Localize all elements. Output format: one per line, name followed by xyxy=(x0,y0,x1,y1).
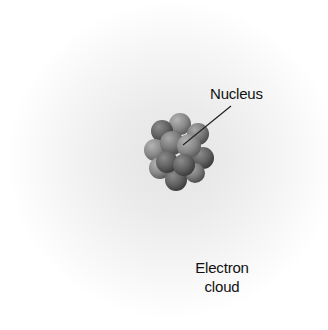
nucleus-particles xyxy=(144,113,214,191)
electron-cloud-label: Electron cloud xyxy=(186,258,258,296)
nucleus-label: Nucleus xyxy=(210,84,263,103)
electron-cloud-label-line1: Electron xyxy=(186,258,258,277)
nucleus-graphic xyxy=(0,0,328,330)
electron-cloud-label-line2: cloud xyxy=(186,277,258,296)
